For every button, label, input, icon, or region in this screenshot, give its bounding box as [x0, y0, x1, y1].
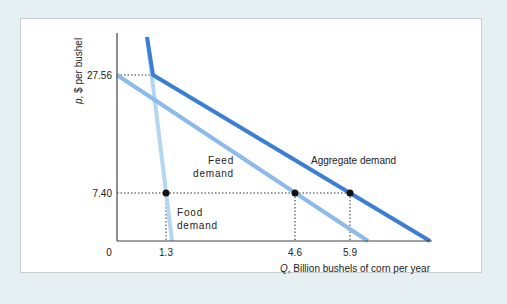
x-tick-1-3: 1.3 — [159, 247, 173, 258]
demand-chart: 27.56 7.40 0 1.3 4.6 5.9 Q, Billion bush… — [0, 0, 507, 304]
feed-label-2: demand — [193, 168, 234, 179]
x-tick-5-9: 5.9 — [343, 247, 357, 258]
x-tick-0: 0 — [106, 247, 112, 258]
x-tick-4-6: 4.6 — [288, 247, 302, 258]
food-marker — [163, 190, 170, 197]
y-axis-title: p, $ per bushel — [73, 38, 84, 105]
y-tick-7-40: 7.40 — [93, 188, 113, 199]
feed-label-1: Feed — [208, 155, 234, 166]
y-tick-27-56: 27.56 — [87, 70, 112, 81]
x-axis-title: Q, Billion bushels of corn per year — [280, 263, 431, 274]
aggregate-marker — [347, 190, 354, 197]
y-axis-desc: , $ per bushel — [73, 38, 84, 99]
feed-marker — [292, 190, 299, 197]
aggregate-label: Aggregate demand — [311, 155, 396, 166]
x-axis-desc: , Billion bushels of corn per year — [288, 263, 431, 274]
food-label-1: Food — [177, 207, 203, 218]
food-label-2: demand — [177, 220, 218, 231]
